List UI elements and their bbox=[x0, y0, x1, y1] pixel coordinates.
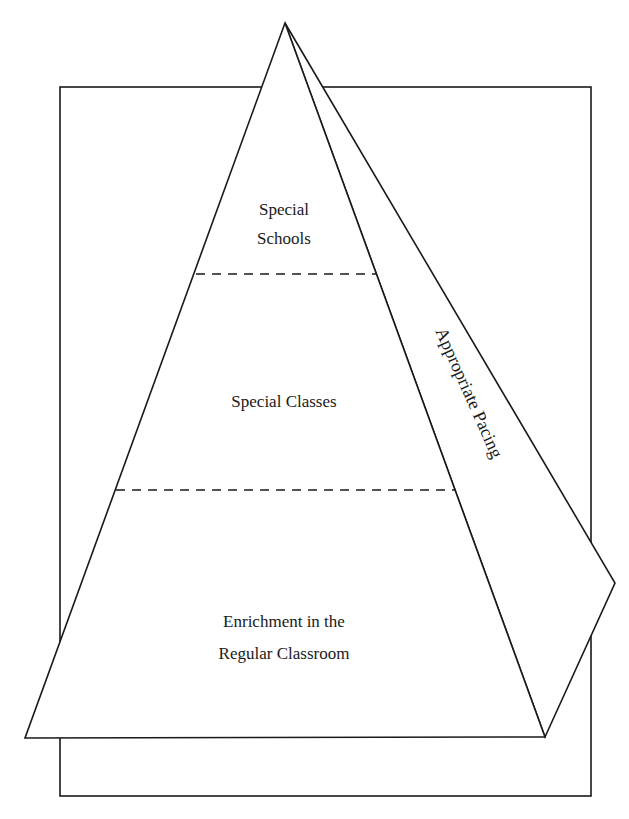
tier-label-special-schools-line2: Schools bbox=[257, 230, 311, 247]
tier-label-special-schools-line1: Special bbox=[259, 201, 309, 218]
tier-label-enrichment-line1: Enrichment in the bbox=[223, 613, 345, 630]
tier-label-enrichment-line2: Regular Classroom bbox=[219, 645, 350, 662]
tier-label-special-classes: Special Classes bbox=[231, 393, 336, 410]
